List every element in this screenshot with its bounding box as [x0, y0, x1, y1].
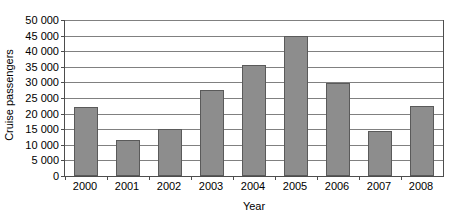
bar-slot [107, 20, 149, 176]
bar [284, 36, 308, 176]
x-axis-title: Year [64, 200, 444, 212]
y-axis-tick-label: 40 000 [25, 45, 59, 57]
bar [242, 65, 266, 176]
bars-layer [65, 20, 443, 176]
y-axis-tick-label: 50 000 [25, 14, 59, 26]
x-axis-tick-label: 2000 [73, 180, 97, 192]
y-axis-tick-label: 35 000 [25, 61, 59, 73]
y-axis-tick-label: 25 000 [25, 92, 59, 104]
bar-slot [317, 20, 359, 176]
bar-slot [401, 20, 443, 176]
bar-slot [65, 20, 107, 176]
y-axis-tick-label: 0 [53, 170, 59, 182]
bar [368, 131, 392, 176]
x-axis-tick-label: 2006 [325, 180, 349, 192]
bar-slot [275, 20, 317, 176]
y-axis-tick-label: 30 000 [25, 76, 59, 88]
y-axis-tick-label: 20 000 [25, 108, 59, 120]
y-axis-tick-label: 5 000 [31, 154, 59, 166]
x-axis-tick-label: 2003 [199, 180, 223, 192]
bar [326, 83, 350, 176]
bar [116, 140, 140, 176]
bar [74, 107, 98, 176]
x-axis-tick-label: 2004 [241, 180, 265, 192]
x-axis-tick-label: 2005 [283, 180, 307, 192]
x-axis-tick-labels: 200020012002200320042005200620072008 [64, 180, 444, 196]
y-axis-tick-label: 45 000 [25, 30, 59, 42]
bar [200, 90, 224, 176]
y-axis-tick-labels: 05 00010 00015 00020 00025 00030 00035 0… [14, 14, 62, 176]
bar-slot [233, 20, 275, 176]
y-axis-tick-label: 10 000 [25, 139, 59, 151]
bar-chart: Cruise passengers 05 00010 00015 00020 0… [0, 0, 457, 223]
plot-area [64, 20, 444, 177]
bar [410, 106, 434, 176]
x-axis-tick-label: 2007 [367, 180, 391, 192]
x-axis-tick-label: 2001 [115, 180, 139, 192]
y-axis-tick-label: 15 000 [25, 123, 59, 135]
bar-slot [149, 20, 191, 176]
bar [158, 129, 182, 176]
bar-slot [191, 20, 233, 176]
bar-slot [359, 20, 401, 176]
x-axis-tick-label: 2008 [409, 180, 433, 192]
x-axis-tick-label: 2002 [157, 180, 181, 192]
gridline [65, 176, 443, 177]
